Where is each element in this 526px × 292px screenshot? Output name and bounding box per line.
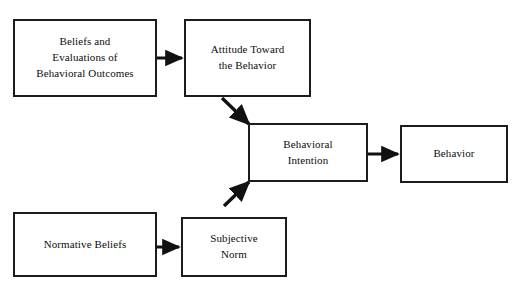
node-subjective-norm: Subjective Norm xyxy=(181,217,287,277)
node-subjective-label: Subjective Norm xyxy=(206,231,261,263)
node-normative-beliefs: Normative Beliefs xyxy=(13,212,157,277)
node-normative-label: Normative Beliefs xyxy=(40,237,131,253)
node-behavior-label: Behavior xyxy=(429,146,478,162)
diagram-canvas: Beliefs and Evaluations of Behavioral Ou… xyxy=(0,0,526,292)
arrow-subjective-to-intention xyxy=(224,182,249,206)
node-beliefs-label: Beliefs and Evaluations of Behavioral Ou… xyxy=(32,34,138,82)
node-attitude-toward-behavior: Attitude Toward the Behavior xyxy=(184,19,311,97)
node-behavior: Behavior xyxy=(400,125,508,183)
node-behavioral-intention: Behavioral Intention xyxy=(248,123,368,182)
node-intention-label: Behavioral Intention xyxy=(279,137,336,169)
node-beliefs-and-evaluations: Beliefs and Evaluations of Behavioral Ou… xyxy=(13,19,157,97)
node-attitude-label: Attitude Toward the Behavior xyxy=(207,42,289,74)
arrow-attitude-to-intention xyxy=(222,98,249,124)
